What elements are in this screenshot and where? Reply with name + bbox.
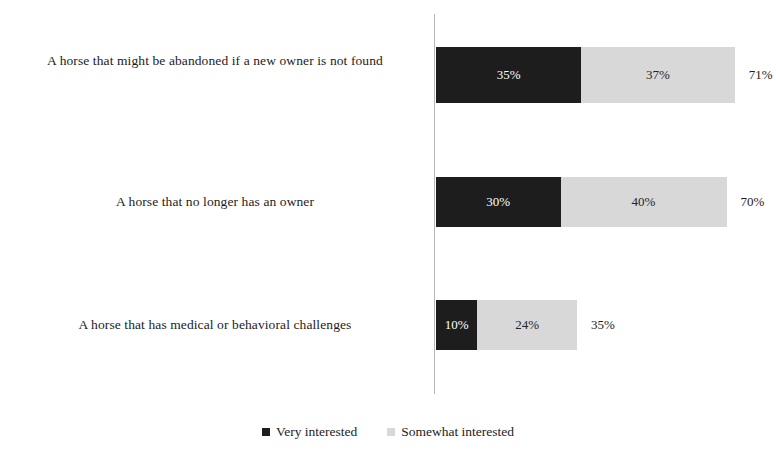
category-label: A horse that has medical or behavioral c… [6,315,424,334]
bar-segment-value: 35% [436,68,581,82]
bar-segment-somewhat-interested[interactable]: 40% [561,177,727,227]
chart-row: A horse that might be abandoned if a new… [0,47,776,103]
chart-legend: Very interested Somewhat interested [0,424,776,439]
bar-segment-value: 24% [477,318,577,332]
category-label: A horse that might be abandoned if a new… [6,51,424,70]
dark-square-icon [262,428,270,436]
legend-item-label: Very interested [276,424,357,439]
bar-segment-value: 40% [561,195,727,209]
stacked-bar[interactable]: 30% 40% [436,177,727,227]
bar-segment-somewhat-interested[interactable]: 24% [477,300,577,350]
bar-total-label: 70% [741,195,765,209]
chart-row: A horse that no longer has an owner 30% … [0,177,776,227]
bar-total-label: 35% [591,318,615,332]
legend-item-label: Somewhat interested [401,424,514,439]
stacked-bar[interactable]: 10% 24% [436,300,577,350]
bar-segment-very-interested[interactable]: 35% [436,47,581,103]
legend-item-somewhat-interested[interactable]: Somewhat interested [387,424,514,439]
bar-segment-value: 37% [581,68,735,82]
bar-total-label: 71% [749,68,773,82]
chart-row: A horse that has medical or behavioral c… [0,300,776,350]
bar-segment-somewhat-interested[interactable]: 37% [581,47,735,103]
legend-item-very-interested[interactable]: Very interested [262,424,357,439]
bar-segment-very-interested[interactable]: 10% [436,300,477,350]
stacked-bar-chart: A horse that might be abandoned if a new… [0,0,776,452]
category-label: A horse that no longer has an owner [6,192,424,211]
bar-segment-very-interested[interactable]: 30% [436,177,561,227]
plot-area: A horse that might be abandoned if a new… [0,0,776,410]
bar-segment-value: 10% [436,318,477,332]
bar-segment-value: 30% [436,195,561,209]
stacked-bar[interactable]: 35% 37% [436,47,735,103]
light-square-icon [387,428,395,436]
